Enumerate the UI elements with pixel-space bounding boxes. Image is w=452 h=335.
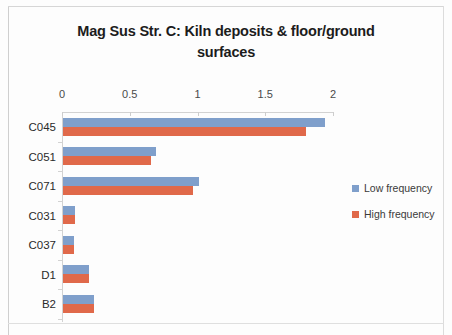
bar-high-frequency [63,274,89,283]
chart-legend: Low frequency High frequency [352,182,435,234]
page-frame-bottom-edge [8,323,444,324]
y-axis-category-label: D1 [0,269,56,281]
y-axis-tick-mark [58,201,62,202]
page-frame-right-edge [443,6,444,335]
x-axis-tick-label: 2 [330,88,336,100]
y-axis-category-label: C051 [0,151,56,163]
page-frame-left-edge [8,6,9,335]
bar-low-frequency [63,265,89,274]
bar-high-frequency [63,304,94,313]
x-axis-tick-label: 1.5 [258,88,273,100]
y-axis-category-label: C031 [0,210,56,222]
bar-low-frequency [63,147,156,156]
legend-label-high-frequency: High frequency [364,208,435,220]
y-axis-tick-mark [58,230,62,231]
bar-high-frequency [63,186,193,195]
legend-swatch-icon-high-frequency [352,211,359,218]
chart-title: Mag Sus Str. C: Kiln deposits & floor/gr… [40,21,412,63]
x-axis-tick-mark [265,112,266,116]
y-axis-category-label: C071 [0,180,56,192]
legend-item-low-frequency: Low frequency [352,182,435,194]
bar-high-frequency [63,156,151,165]
y-axis-tick-mark [58,319,62,320]
bar-low-frequency [63,206,75,215]
y-axis-category-label: C045 [0,121,56,133]
y-axis-tick-mark [58,171,62,172]
x-axis-tick-mark [62,112,63,116]
x-axis-tick-label: 1 [194,88,200,100]
legend-swatch-icon-low-frequency [352,185,359,192]
chart-screenshot: Mag Sus Str. C: Kiln deposits & floor/gr… [0,0,452,335]
bar-low-frequency [63,236,74,245]
x-axis-tick-mark [130,112,131,116]
legend-item-high-frequency: High frequency [352,208,435,220]
bar-low-frequency [63,118,325,127]
page-frame-top-edge [8,6,444,7]
x-axis-tick-label: 0.5 [122,88,137,100]
y-axis-category-label: C037 [0,239,56,251]
bar-low-frequency [63,177,199,186]
bar-high-frequency [63,245,74,254]
bar-high-frequency [63,215,75,224]
bar-low-frequency [63,295,94,304]
y-axis-tick-mark [58,289,62,290]
x-axis-tick-mark [198,112,199,116]
y-axis-category-label: B2 [0,298,56,310]
y-axis-tick-mark [58,142,62,143]
x-axis-tick-label: 0 [59,88,65,100]
chart-title-line-1: Mag Sus Str. C: Kiln deposits & floor/gr… [40,21,412,42]
bar-high-frequency [63,127,306,136]
chart-title-line-2: surfaces [40,42,412,63]
y-axis-tick-mark [58,260,62,261]
x-axis-tick-mark [333,112,334,116]
legend-label-low-frequency: Low frequency [364,182,432,194]
